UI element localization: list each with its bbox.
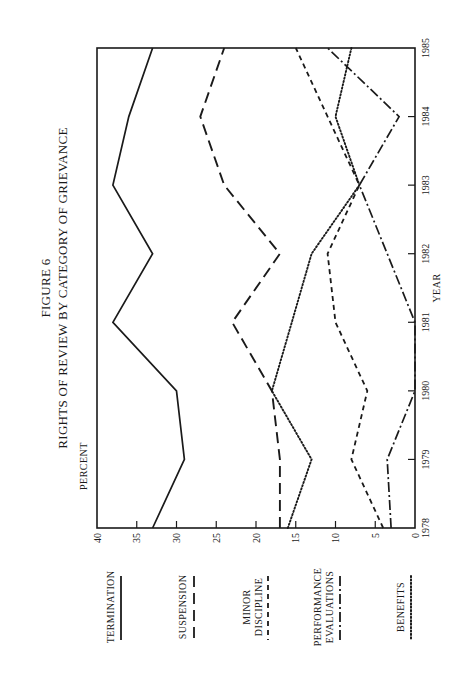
x-tick-label: 1983 [420, 175, 431, 195]
legend-item-termination: TERMINATION [105, 571, 121, 644]
x-tick-label: 1980 [420, 381, 431, 401]
x-tick-label: 1978 [420, 518, 431, 538]
y-tick-label: 30 [171, 533, 182, 543]
y-tick-label: 15 [290, 533, 301, 543]
x-tick-label: 1985 [420, 38, 431, 58]
legend-label: MINOR [241, 589, 252, 624]
x-tick-label: 1981 [420, 312, 431, 332]
x-tick-label: 1979 [420, 449, 431, 469]
y-tick-label: 10 [330, 533, 341, 543]
y-axis-ticks: 4035302520151050 [92, 521, 421, 543]
legend-label: TERMINATION [105, 571, 116, 644]
figure-canvas: FIGURE 6 RIGHTS OF REVIEW BY CATEGORY OF… [0, 0, 472, 687]
legend-item-benefits: BENEFITS [395, 576, 411, 640]
y-tick-label: 20 [251, 533, 262, 543]
y-tick-label: 5 [370, 533, 381, 538]
legend-label: EVALUATIONS [324, 571, 335, 644]
series-line-performance-evaluations [328, 48, 415, 528]
y-tick-label: 0 [410, 533, 421, 538]
series-line-termination [113, 48, 184, 528]
series-line-minor-discipline [296, 48, 383, 528]
figure-title: RIGHTS OF REVIEW BY CATEGORY OF GRIEVANC… [55, 127, 70, 448]
x-axis-ticks: 19781979198019811982198319841985 [408, 38, 431, 538]
legend-label: PERFORMANCE [312, 568, 323, 646]
series-line-suspension [200, 48, 280, 528]
y-tick-label: 35 [131, 533, 142, 543]
series-line-benefits [272, 48, 360, 528]
plot-series [113, 48, 415, 528]
y-tick-label: 25 [211, 533, 222, 543]
y-axis-title: PERCENT [78, 442, 89, 490]
legend-item-performance-evaluations: PERFORMANCEEVALUATIONS [312, 568, 340, 646]
legend-item-minor-discipline: MINORDISCIPLINE [241, 576, 268, 640]
legend-item-suspension: SUSPENSION [177, 575, 194, 640]
figure-number: FIGURE 6 [38, 258, 53, 317]
legend-label: DISCIPLINE [253, 578, 264, 636]
x-tick-label: 1984 [420, 107, 431, 127]
x-tick-label: 1982 [420, 244, 431, 264]
legend-label: BENEFITS [395, 582, 406, 632]
x-axis-title: YEAR [431, 273, 442, 302]
legend: TERMINATIONSUSPENSIONMINORDISCIPLINEPERF… [105, 568, 411, 646]
y-tick-label: 40 [92, 533, 103, 543]
legend-label: SUSPENSION [177, 575, 188, 640]
